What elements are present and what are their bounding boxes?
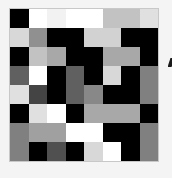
grid-cell-r1-c8[interactable] [140,9,159,28]
grid-cell-r4-c3[interactable] [47,66,66,85]
grid-cell-r2-c2[interactable] [29,28,48,47]
grid-cell-r4-c5[interactable] [84,66,103,85]
grid-cell-r6-c4[interactable] [66,104,85,123]
grid-cell-r1-c6[interactable] [103,9,122,28]
grid-cell-r5-c1[interactable] [10,85,29,104]
grid-cell-r7-c2[interactable] [29,123,48,142]
grid-cell-r3-c3[interactable] [47,47,66,66]
grid-cell-r6-c8[interactable] [140,104,159,123]
grid-cell-r7-c7[interactable] [121,123,140,142]
grid-cell-r5-c6[interactable] [103,85,122,104]
grid-cell-r8-c2[interactable] [29,142,48,161]
grid-cell-r1-c4[interactable] [66,9,85,28]
grid-cell-r6-c6[interactable] [103,104,122,123]
grid-cell-r5-c5[interactable] [84,85,103,104]
grid-cell-r6-c2[interactable] [29,104,48,123]
grid-cell-r3-c8[interactable] [140,47,159,66]
grid-cell-r3-c5[interactable] [84,47,103,66]
grid-cell-r2-c8[interactable] [140,28,159,47]
cropped-glyph-icon [168,58,172,68]
grid-cell-r2-c6[interactable] [103,28,122,47]
grid-cell-r8-c4[interactable] [66,142,85,161]
grid-cell-r8-c8[interactable] [140,142,159,161]
grid-cell-r8-c3[interactable] [47,142,66,161]
grid-cell-r1-c2[interactable] [29,9,48,28]
puzzle-stage [0,0,172,178]
grid-cell-r1-c1[interactable] [10,9,29,28]
grid-cell-r5-c7[interactable] [121,85,140,104]
grid-cell-r7-c8[interactable] [140,123,159,142]
grid-cell-r7-c5[interactable] [84,123,103,142]
grid-cell-r7-c6[interactable] [103,123,122,142]
grid-cell-r6-c1[interactable] [10,104,29,123]
pattern-grid [10,9,158,161]
grid-cell-r2-c3[interactable] [47,28,66,47]
grid-cell-r8-c7[interactable] [121,142,140,161]
grid-cell-r4-c4[interactable] [66,66,85,85]
grid-cell-r4-c7[interactable] [121,66,140,85]
grid-cell-r2-c5[interactable] [84,28,103,47]
grid-cell-r1-c5[interactable] [84,9,103,28]
grid-cell-r7-c3[interactable] [47,123,66,142]
grid-cell-r8-c6[interactable] [103,142,122,161]
grid-cell-r6-c3[interactable] [47,104,66,123]
grid-cell-r4-c1[interactable] [10,66,29,85]
grid-cell-r5-c3[interactable] [47,85,66,104]
grid-cell-r5-c2[interactable] [29,85,48,104]
grid-cell-r3-c7[interactable] [121,47,140,66]
grid-cell-r4-c2[interactable] [29,66,48,85]
grid-cell-r5-c4[interactable] [66,85,85,104]
grid-cell-r8-c1[interactable] [10,142,29,161]
grid-cell-r2-c4[interactable] [66,28,85,47]
grid-cell-r2-c1[interactable] [10,28,29,47]
grid-cell-r7-c4[interactable] [66,123,85,142]
grid-cell-r6-c5[interactable] [84,104,103,123]
grid-cell-r7-c1[interactable] [10,123,29,142]
grid-cell-r4-c8[interactable] [140,66,159,85]
grid-cell-r1-c3[interactable] [47,9,66,28]
grid-cell-r6-c7[interactable] [121,104,140,123]
grid-cell-r8-c5[interactable] [84,142,103,161]
grid-cell-r1-c7[interactable] [121,9,140,28]
grid-cell-r3-c2[interactable] [29,47,48,66]
grid-cell-r4-c6[interactable] [103,66,122,85]
grid-cell-r3-c1[interactable] [10,47,29,66]
grid-cell-r3-c6[interactable] [103,47,122,66]
grid-cell-r2-c7[interactable] [121,28,140,47]
grid-cell-r5-c8[interactable] [140,85,159,104]
grid-cell-r3-c4[interactable] [66,47,85,66]
